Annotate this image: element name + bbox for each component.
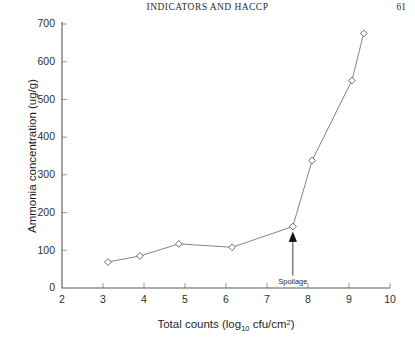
y-axis-ticks: 0100200300400500600700 [37, 17, 67, 293]
series-markers [105, 30, 368, 265]
svg-text:10: 10 [384, 293, 396, 305]
svg-text:400: 400 [37, 130, 55, 142]
chart-figure: 0100200300400500600700 2345678910 Spoila… [0, 0, 415, 338]
svg-text:200: 200 [37, 206, 55, 218]
svg-text:500: 500 [37, 93, 55, 105]
svg-text:5: 5 [182, 293, 188, 305]
svg-text:100: 100 [37, 244, 55, 256]
svg-text:700: 700 [37, 17, 55, 29]
series-line-ammonia [108, 33, 364, 262]
svg-text:3: 3 [100, 293, 106, 305]
annotation-spoilage: Spoilage [278, 233, 307, 286]
svg-text:300: 300 [37, 168, 55, 180]
svg-text:7: 7 [264, 293, 270, 305]
svg-text:2: 2 [59, 293, 65, 305]
svg-text:0: 0 [49, 281, 55, 293]
page-root: INDICATORS AND HACCP 61 0100200300400500… [0, 0, 415, 338]
svg-text:9: 9 [346, 293, 352, 305]
svg-text:4: 4 [141, 293, 147, 305]
svg-text:600: 600 [37, 55, 55, 67]
axis-lines [62, 22, 390, 288]
svg-text:6: 6 [223, 293, 229, 305]
svg-text:Spoilage: Spoilage [278, 277, 307, 286]
svg-text:8: 8 [305, 293, 311, 305]
line-chart: 0100200300400500600700 2345678910 Spoila… [0, 0, 415, 338]
x-axis-ticks: 2345678910 [59, 283, 396, 305]
x-axis-title: Total counts (log10 cfu/cm2) [157, 318, 294, 333]
